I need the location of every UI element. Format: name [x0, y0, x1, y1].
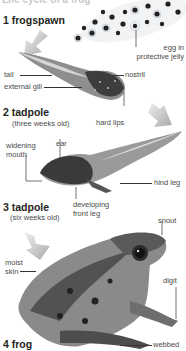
pointer-line [20, 75, 52, 76]
stage-4-title: 4 frog [3, 338, 32, 350]
pointer-line [44, 87, 82, 88]
label-hind-leg: hind leg [154, 179, 180, 188]
label-webbed: webbed [153, 341, 179, 350]
pointer-line [20, 271, 36, 272]
label-front-leg: front leg [73, 210, 109, 219]
label-ear: ear [56, 140, 67, 149]
frog-illustration [0, 221, 186, 351]
stage-3-title: 3 tadpole [3, 201, 49, 213]
label-tail: tail [4, 71, 14, 80]
label-external-gill: external gill [4, 83, 42, 92]
tadpole-three-weeks-illustration [0, 48, 186, 108]
stage-2-title: 2 tadpole [3, 106, 49, 118]
pointer-line [120, 345, 152, 346]
label-developing-front-leg: developing front leg [73, 201, 109, 218]
label-moist-skin: moist skin [5, 259, 23, 276]
label-snout: snout [158, 217, 176, 226]
pointer-line [120, 183, 152, 184]
label-digit: digit [163, 277, 177, 286]
label-nostril: nostril [125, 71, 145, 80]
label-widening-mouth: widening mouth [6, 142, 36, 159]
pointer-line [112, 75, 124, 76]
label-skin: skin [5, 268, 23, 277]
label-mouth: mouth [6, 151, 36, 160]
